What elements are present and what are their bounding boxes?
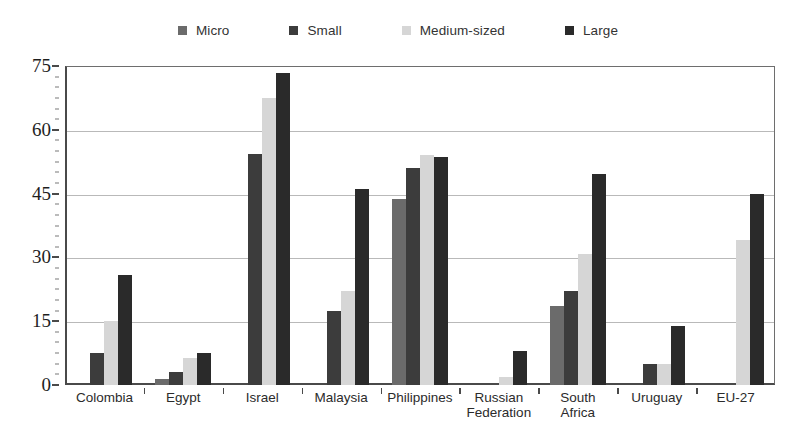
bar[interactable] xyxy=(434,157,448,385)
y-tick-label-45: 45 xyxy=(32,183,51,205)
y-minor-tick xyxy=(55,310,59,311)
bar-group xyxy=(381,66,460,385)
legend-label-medium-sized: Medium-sized xyxy=(420,23,505,38)
y-tick-label-60: 60 xyxy=(32,119,51,141)
x-tick-mark xyxy=(538,388,540,394)
x-tick-label: Russian Federation xyxy=(459,390,538,420)
bar[interactable] xyxy=(564,291,578,385)
x-tick-mark xyxy=(617,388,619,394)
y-tick-label-75: 75 xyxy=(32,55,51,77)
y-minor-tick xyxy=(55,353,59,354)
legend-swatch-medium-sized xyxy=(402,26,411,35)
bar-groups xyxy=(65,66,775,385)
bar-group xyxy=(459,66,538,385)
bar-group xyxy=(65,66,144,385)
bar[interactable] xyxy=(392,199,406,385)
x-tick-label: Israel xyxy=(223,390,302,405)
x-tick-mark xyxy=(696,388,698,394)
y-minor-tick xyxy=(55,374,59,375)
y-tick-mark-45 xyxy=(52,193,59,195)
legend-item-micro[interactable]: Micro xyxy=(178,23,230,38)
bar[interactable] xyxy=(262,98,276,385)
bar[interactable] xyxy=(341,291,355,385)
legend-swatch-large xyxy=(565,26,574,35)
x-tick-label: Egypt xyxy=(144,390,223,405)
y-minor-tick xyxy=(55,363,59,364)
y-minor-tick xyxy=(55,214,59,215)
y-minor-tick xyxy=(55,342,59,343)
legend-label-large: Large xyxy=(583,23,618,38)
bar[interactable] xyxy=(671,326,685,385)
y-minor-tick xyxy=(55,97,59,98)
x-tick-label: Colombia xyxy=(65,390,144,405)
bar[interactable] xyxy=(169,372,183,385)
bar[interactable] xyxy=(197,353,211,385)
y-minor-tick xyxy=(55,278,59,279)
bar[interactable] xyxy=(276,73,290,385)
y-tick-label-30: 30 xyxy=(32,246,51,268)
bar[interactable] xyxy=(513,351,527,385)
bar[interactable] xyxy=(750,194,764,385)
bar[interactable] xyxy=(104,321,118,385)
x-tick-label: Malaysia xyxy=(302,390,381,405)
bar-group xyxy=(223,66,302,385)
x-tick-mark xyxy=(223,388,225,394)
y-minor-tick xyxy=(55,108,59,109)
bar[interactable] xyxy=(248,154,262,385)
chart-legend: Micro Small Medium-sized Large xyxy=(0,18,796,42)
bar[interactable] xyxy=(499,377,513,386)
bar[interactable] xyxy=(355,189,369,385)
y-minor-tick xyxy=(55,87,59,88)
bar[interactable] xyxy=(327,311,341,385)
bar-group xyxy=(538,66,617,385)
x-tick-label: EU-27 xyxy=(696,390,775,405)
y-minor-tick xyxy=(55,161,59,162)
legend-item-small[interactable]: Small xyxy=(289,23,341,38)
bar[interactable] xyxy=(183,358,197,385)
y-minor-tick xyxy=(55,299,59,300)
bar[interactable] xyxy=(118,275,132,385)
y-tick-label-0: 0 xyxy=(42,374,52,396)
bar[interactable] xyxy=(578,254,592,385)
legend-swatch-micro xyxy=(178,26,187,35)
bar-group xyxy=(144,66,223,385)
bar[interactable] xyxy=(592,174,606,385)
bar[interactable] xyxy=(736,240,750,385)
y-minor-tick xyxy=(55,331,59,332)
legend-item-large[interactable]: Large xyxy=(565,23,618,38)
legend-item-medium-sized[interactable]: Medium-sized xyxy=(402,23,505,38)
bar-group xyxy=(696,66,775,385)
y-minor-tick xyxy=(55,172,59,173)
y-minor-tick xyxy=(55,289,59,290)
bar[interactable] xyxy=(90,353,104,385)
legend-label-small: Small xyxy=(307,23,341,38)
bar[interactable] xyxy=(657,364,671,385)
bar[interactable] xyxy=(406,168,420,385)
y-tick-mark-30 xyxy=(52,256,59,258)
y-tick-label-15: 15 xyxy=(32,310,51,332)
y-tick-mark-60 xyxy=(52,129,59,131)
x-axis: ColombiaEgyptIsraelMalaysiaPhilippinesRu… xyxy=(65,388,775,443)
x-tick-label: South Africa xyxy=(538,390,617,420)
x-tick-mark xyxy=(381,388,383,394)
y-tick-mark-15 xyxy=(52,320,59,322)
legend-label-micro: Micro xyxy=(196,23,230,38)
y-axis: 01530456075 xyxy=(0,0,65,443)
x-tick-label: Uruguay xyxy=(617,390,696,405)
bar-group xyxy=(617,66,696,385)
bar[interactable] xyxy=(550,306,564,385)
y-minor-tick xyxy=(55,268,59,269)
y-minor-tick xyxy=(55,151,59,152)
x-tick-mark xyxy=(459,388,461,394)
bar[interactable] xyxy=(420,155,434,385)
x-tick-label: Philippines xyxy=(381,390,460,405)
bar[interactable] xyxy=(155,379,169,385)
bar-group xyxy=(302,66,381,385)
y-minor-tick xyxy=(55,182,59,183)
bar[interactable] xyxy=(643,364,657,385)
y-minor-tick xyxy=(55,119,59,120)
y-minor-tick xyxy=(55,204,59,205)
y-tick-mark-75 xyxy=(52,65,59,67)
y-minor-tick xyxy=(55,140,59,141)
x-tick-mark xyxy=(302,388,304,394)
